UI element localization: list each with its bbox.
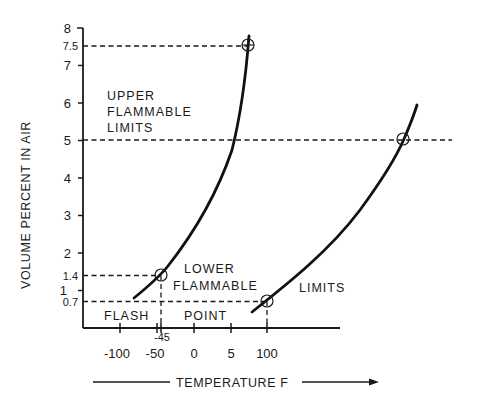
svg-text:POINT: POINT xyxy=(184,309,227,323)
svg-text:-50: -50 xyxy=(146,346,165,361)
x-tick-labels: -100 -50 -45 0 5 100 xyxy=(104,331,278,361)
svg-text:4: 4 xyxy=(64,171,71,186)
svg-text:FLAMMABLE: FLAMMABLE xyxy=(173,279,258,293)
svg-text:0.7: 0.7 xyxy=(63,296,78,308)
svg-text:LOWER: LOWER xyxy=(184,262,235,276)
annotation-flash-point: FLASH POINT xyxy=(104,309,227,323)
svg-text:100: 100 xyxy=(256,346,278,361)
svg-text:5: 5 xyxy=(64,133,71,148)
svg-text:8: 8 xyxy=(64,21,71,36)
svg-text:7: 7 xyxy=(64,58,71,73)
svg-text:1.4: 1.4 xyxy=(63,270,78,282)
svg-text:3: 3 xyxy=(64,208,71,223)
svg-text:LIMITS: LIMITS xyxy=(107,121,153,135)
svg-text:FLAMMABLE: FLAMMABLE xyxy=(107,105,192,119)
svg-text:LIMITS: LIMITS xyxy=(299,281,345,295)
svg-text:7.5: 7.5 xyxy=(63,40,78,52)
svg-text:FLASH: FLASH xyxy=(104,309,149,323)
svg-text:UPPER: UPPER xyxy=(107,89,155,103)
arrow-right-icon xyxy=(369,379,379,386)
svg-text:TEMPERATURE F: TEMPERATURE F xyxy=(176,376,288,390)
annotation-lower-limits: LOWER FLAMMABLE LIMITS xyxy=(173,262,345,295)
curve-left xyxy=(134,36,249,298)
svg-text:-100: -100 xyxy=(104,346,130,361)
svg-text:2: 2 xyxy=(64,246,71,261)
svg-text:0: 0 xyxy=(190,346,197,361)
y-axis-title: VOLUME PERCENT IN AIR xyxy=(19,121,33,289)
y-tick-labels: 8 7.5 7 6 5 4 3 2 1.4 1 0.7 xyxy=(60,21,78,308)
flammability-chart: 8 7.5 7 6 5 4 3 2 1.4 1 0.7 -100 -50 -45… xyxy=(0,0,487,409)
svg-text:-45: -45 xyxy=(154,331,170,343)
curves xyxy=(134,36,417,312)
annotation-upper-limits: UPPER FLAMMABLE LIMITS xyxy=(107,89,192,135)
x-axis-title: TEMPERATURE F xyxy=(93,376,379,390)
svg-text:5: 5 xyxy=(227,346,234,361)
svg-text:6: 6 xyxy=(64,96,71,111)
